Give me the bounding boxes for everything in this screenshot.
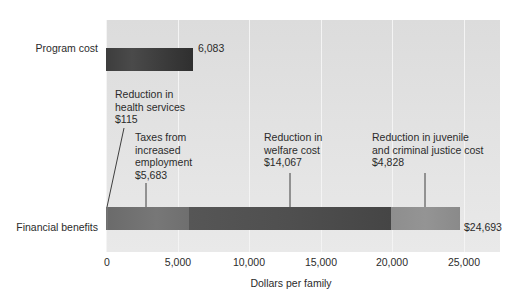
chart-root: Program cost Financial benefits 6,083 $2…: [0, 0, 518, 305]
chart-title-cutoff: [106, 0, 500, 4]
segment-justice-cost[interactable]: [391, 207, 460, 230]
annotation-health-services: Reduction in health services $115: [115, 88, 185, 126]
category-label-financial-benefits: Financial benefits: [6, 221, 98, 233]
xtick-label-15000: 15,000: [305, 256, 337, 268]
category-label-program-cost: Program cost: [10, 42, 98, 54]
x-axis-title-text: Dollars per family: [250, 277, 331, 289]
annotation-welfare-cost: Reduction in welfare cost $14,067: [264, 131, 322, 169]
bar-financial-benefits[interactable]: [106, 207, 460, 230]
annotation-taxes: Taxes from increased employment $5,683: [135, 131, 192, 181]
xtick-label-25000: 25,000: [448, 256, 480, 268]
xtick-label-10000: 10,000: [233, 256, 265, 268]
value-label-program-cost: 6,083: [198, 42, 224, 54]
segment-taxes[interactable]: [108, 207, 189, 230]
bar-program-cost[interactable]: [106, 48, 193, 71]
xtick-label-0: 0: [104, 256, 110, 268]
segment-welfare-cost[interactable]: [189, 207, 391, 230]
x-axis-title: Dollars per family: [0, 277, 518, 289]
xtick-label-5000: 5,000: [165, 256, 191, 268]
annotation-justice-cost: Reduction in juvenile and criminal justi…: [372, 131, 483, 169]
value-label-financial-benefits: $24,693: [464, 221, 502, 233]
xtick-label-20000: 20,000: [376, 256, 408, 268]
